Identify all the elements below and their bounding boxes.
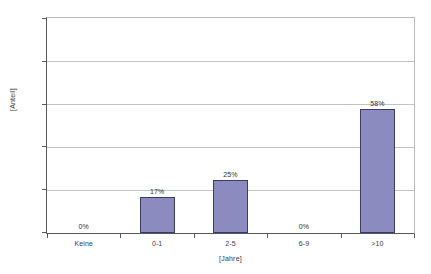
bar [360, 109, 395, 233]
bar [213, 180, 248, 234]
x-axis-category-label: Keine [47, 240, 120, 247]
bar-value-label: 25% [223, 171, 237, 178]
x-axis-labels: Keine0-12-56-9>10 [47, 240, 414, 247]
bar-slot: 0% [267, 18, 340, 233]
bar-slot: 25% [194, 18, 267, 233]
y-axis-title: [Anteil] [9, 88, 16, 111]
bar-slot: 58% [341, 18, 414, 233]
x-axis-title: [Jahre] [47, 255, 414, 262]
bar-slot: 17% [120, 18, 193, 233]
x-axis-category-label: 2-5 [194, 240, 267, 247]
bar [140, 197, 175, 233]
x-axis-tickmark [341, 234, 342, 238]
bar-slot: 0% [47, 18, 120, 233]
x-axis-tickmark [47, 234, 48, 238]
bar-series: 0%17%25%0%58% [47, 18, 414, 233]
bar-chart: [Anteil] 0%20%40%60%80%100% 0%17%25%0%58… [0, 0, 431, 274]
x-axis-tickmark [120, 234, 121, 238]
bar-value-label: 0% [79, 223, 89, 230]
bar-value-label: 58% [370, 100, 384, 107]
x-axis-category-label: >10 [341, 240, 414, 247]
bar-value-label: 17% [150, 188, 164, 195]
x-axis-tickmark [267, 234, 268, 238]
x-axis-category-label: 6-9 [267, 240, 340, 247]
x-axis-category-label: 0-1 [120, 240, 193, 247]
bar-value-label: 0% [299, 223, 309, 230]
x-axis-tickmark [414, 234, 415, 238]
x-axis-tickmark [194, 234, 195, 238]
